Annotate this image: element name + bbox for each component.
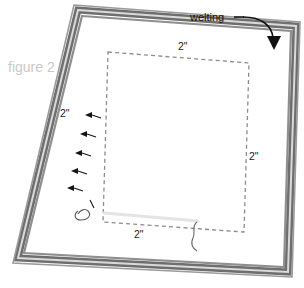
figure-2-diagram: figure 2 welting 2" 2" 2" 2" — [0, 0, 304, 288]
panel-face — [18, 10, 296, 272]
dimension-label-top: 2" — [178, 40, 188, 52]
dimension-label-left: 2" — [60, 107, 70, 119]
fabric-panel — [13, 5, 300, 277]
dimension-label-right: 2" — [249, 150, 259, 162]
welting-callout-label: welting — [189, 11, 224, 23]
diagram-canvas: figure 2 welting 2" 2" 2" 2" — [0, 0, 304, 288]
figure-label: figure 2 — [8, 59, 55, 75]
dimension-label-bottom: 2" — [134, 228, 144, 240]
